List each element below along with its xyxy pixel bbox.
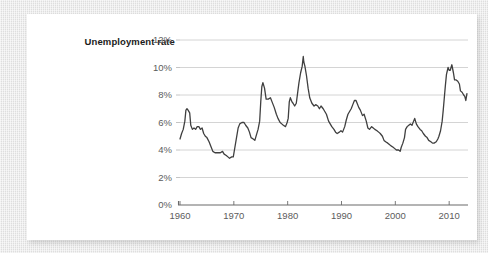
x-tick-label: 1960	[160, 210, 200, 221]
y-tick-label: 4%	[146, 144, 172, 155]
plot-area	[27, 14, 477, 240]
gridlines	[180, 40, 468, 178]
unemployment-rate-chart: Unemployment rate 0%2%4%6%8%10%12% 19601…	[27, 14, 477, 240]
y-tick-label: 10%	[146, 62, 172, 73]
x-tick-label: 1970	[214, 210, 254, 221]
y-tick-label: 8%	[146, 89, 172, 100]
y-tick-label: 0%	[146, 199, 172, 210]
x-tick-label: 1980	[268, 210, 308, 221]
unemployment-rate-line	[180, 57, 467, 159]
x-tick-label: 1990	[321, 210, 361, 221]
y-tick-label: 6%	[146, 117, 172, 128]
y-tick-label: 12%	[146, 34, 172, 45]
y-tick-label: 2%	[146, 172, 172, 183]
x-axis-ticks	[180, 201, 449, 205]
chart-card: Unemployment rate 0%2%4%6%8%10%12% 19601…	[27, 14, 477, 240]
x-axis	[178, 201, 468, 205]
x-tick-label: 2010	[429, 210, 469, 221]
x-tick-label: 2000	[375, 210, 415, 221]
y-axis-ticks	[176, 40, 180, 178]
